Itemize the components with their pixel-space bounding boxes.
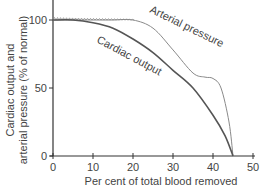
y-tick-label: 100 bbox=[29, 14, 47, 26]
x-axis-label: Per cent of total blood removed bbox=[85, 175, 238, 187]
arterial-pressure-label: Arterial pressure bbox=[148, 3, 226, 49]
x-tick-label: 50 bbox=[247, 161, 259, 173]
y-axis-label-line: Cardiac output and bbox=[4, 44, 16, 137]
y-tick-label: 0 bbox=[41, 150, 47, 162]
cardiac-output-label: Cardiac output bbox=[95, 33, 164, 77]
x-tick-label: 40 bbox=[207, 161, 219, 173]
y-axis-label-line: arterial pressure (% of normal) bbox=[17, 16, 29, 165]
chart: 01020304050050100Per cent of total blood… bbox=[0, 0, 265, 190]
y-tick-label: 50 bbox=[35, 82, 47, 94]
x-tick-label: 20 bbox=[127, 161, 139, 173]
x-tick-label: 0 bbox=[50, 161, 56, 173]
x-tick-label: 30 bbox=[167, 161, 179, 173]
x-tick-label: 10 bbox=[87, 161, 99, 173]
y-axis-label: Cardiac output andarterial pressure (% o… bbox=[4, 16, 29, 165]
